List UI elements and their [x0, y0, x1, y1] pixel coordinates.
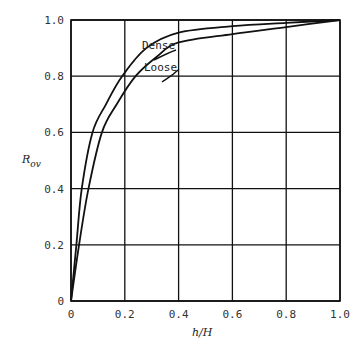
y-axis-ticks: 00.20.40.60.81.0	[44, 14, 64, 308]
y-tick-label: 0.2	[44, 239, 64, 252]
chart: 00.20.40.60.81.0 00.20.40.60.81.0 Dense …	[0, 0, 363, 349]
y-tick-label: 0.6	[44, 126, 64, 139]
loose-label: Loose	[144, 61, 177, 74]
x-tick-label: 0.6	[222, 308, 242, 321]
series-group	[71, 20, 340, 301]
y-axis-label: Rov	[21, 153, 41, 169]
x-tick-label: 1.0	[330, 308, 350, 321]
series-line-dense	[71, 20, 340, 301]
y-tick-label: 0	[57, 295, 64, 308]
y-tick-label: 1.0	[44, 14, 64, 27]
plot-frame	[71, 20, 340, 301]
y-tick-label: 0.4	[44, 183, 64, 196]
dense-label: Dense	[142, 39, 175, 52]
grid-lines	[71, 20, 340, 301]
y-axis-label-main: R	[21, 153, 30, 166]
x-axis-ticks: 00.20.40.60.81.0	[68, 308, 350, 321]
x-tick-label: 0.4	[169, 308, 189, 321]
x-tick-label: 0	[68, 308, 75, 321]
x-tick-label: 0.8	[276, 308, 296, 321]
series-line-loose	[71, 20, 340, 301]
y-axis-label-sub: ov	[30, 159, 41, 169]
y-tick-label: 0.8	[44, 70, 64, 83]
x-axis-label: h/H	[192, 326, 213, 339]
x-tick-label: 0.2	[115, 308, 135, 321]
